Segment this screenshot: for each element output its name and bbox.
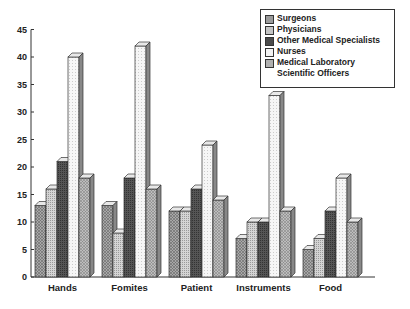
y-tick-label: 0 bbox=[22, 272, 27, 282]
category-label: Fomites bbox=[111, 282, 147, 293]
legend-swatch-icon bbox=[265, 59, 274, 68]
legend: SurgeonsPhysiciansOther Medical Speciali… bbox=[260, 9, 395, 88]
legend-label: Other Medical Specialists bbox=[277, 35, 380, 46]
category-label: Patient bbox=[181, 282, 214, 293]
legend-item: Physicians bbox=[265, 24, 390, 35]
bar bbox=[280, 207, 295, 277]
bar bbox=[79, 174, 94, 277]
bar bbox=[146, 185, 161, 277]
legend-swatch-icon bbox=[265, 37, 274, 46]
legend-item: Medical Laboratory Scientific Officers bbox=[265, 57, 390, 79]
legend-swatch-icon bbox=[265, 15, 274, 24]
category-label: Hands bbox=[48, 282, 77, 293]
y-tick-label: 5 bbox=[22, 245, 27, 255]
legend-swatch-icon bbox=[265, 48, 274, 57]
y-tick-label: 10 bbox=[17, 217, 27, 227]
x-axis-labels: HandsFomitesPatientInstrumentsFood bbox=[48, 282, 342, 293]
y-tick-label: 35 bbox=[17, 80, 27, 90]
legend-item: Nurses bbox=[265, 46, 390, 57]
legend-label: Nurses bbox=[277, 46, 306, 57]
legend-label: Surgeons bbox=[277, 13, 316, 24]
legend-label: Medical Laboratory Scientific Officers bbox=[277, 57, 390, 79]
y-tick-label: 45 bbox=[17, 25, 27, 35]
y-tick-label: 25 bbox=[17, 135, 27, 145]
category-label: Food bbox=[319, 282, 342, 293]
legend-swatch-icon bbox=[265, 26, 274, 35]
y-tick-label: 20 bbox=[17, 162, 27, 172]
y-tick-label: 40 bbox=[17, 52, 27, 62]
y-tick-label: 15 bbox=[17, 190, 27, 200]
bar bbox=[347, 218, 362, 277]
bar bbox=[213, 196, 228, 277]
category-label: Instruments bbox=[236, 282, 290, 293]
legend-item: Surgeons bbox=[265, 13, 390, 24]
legend-item: Other Medical Specialists bbox=[265, 35, 390, 46]
legend-label: Physicians bbox=[277, 24, 321, 35]
y-tick-label: 30 bbox=[17, 107, 27, 117]
